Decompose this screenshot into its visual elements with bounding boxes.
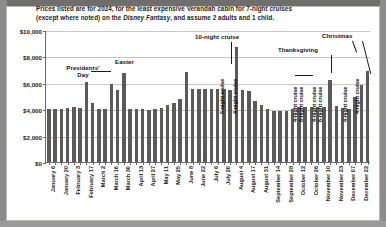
bar — [122, 73, 126, 162]
x-axis-tick-label: March 16 — [113, 166, 119, 190]
x-axis-tick-mark — [205, 162, 206, 165]
bar — [335, 106, 339, 162]
annotation-presidents-day-line2: Day — [77, 71, 88, 78]
x-axis-tick-mark — [55, 162, 56, 165]
x-axis-tick-label: April 13 — [138, 166, 144, 187]
bar — [241, 90, 245, 162]
y-axis-tick-label: $2,000 — [23, 133, 42, 140]
leader-line-10-night — [231, 42, 232, 64]
bar — [128, 109, 132, 162]
x-axis-tick-label: June 22 — [200, 166, 206, 187]
x-axis-tick-label: January 6 — [50, 166, 56, 192]
chart-figure: Prices listed are for 2024, for the leas… — [0, 0, 386, 227]
bar — [272, 111, 276, 162]
x-axis-tick-label: September 14 — [275, 166, 281, 203]
y-axis-tick-label: $4,000 — [23, 107, 42, 114]
annotation-5-night-cruise: 5-night cruise — [219, 79, 225, 114]
x-axis-tick-label: March 2 — [100, 166, 106, 187]
bar — [285, 111, 289, 162]
x-axis-tick-label: February 17 — [88, 166, 94, 198]
x-axis-tick-mark — [86, 162, 87, 165]
chart-title-line2-suffix: , and assume 2 adults and 1 child. — [170, 14, 274, 21]
bar — [103, 109, 107, 162]
x-axis-tick-mark — [136, 162, 137, 165]
x-axis-tick-mark — [330, 162, 331, 165]
annotation-4-night-cruise-1: 4-night cruise — [232, 79, 238, 114]
x-axis-tick-mark — [224, 162, 225, 165]
annotation-6-night-cruise-1: 6-night cruise — [298, 87, 304, 122]
x-axis-tick-mark — [261, 162, 262, 165]
y-axis-tick-label: $6,000 — [23, 80, 42, 87]
bar — [66, 108, 70, 162]
x-axis-tick-label: November 23 — [338, 166, 344, 201]
y-axis-tick-label: $8,000 — [23, 54, 42, 61]
bar — [178, 99, 182, 162]
x-axis-tick-mark — [124, 162, 125, 165]
bar — [203, 89, 207, 162]
x-axis-tick-mark — [349, 162, 350, 165]
x-axis-tick-mark — [99, 162, 100, 165]
x-axis-tick-mark — [168, 162, 169, 165]
x-axis-tick-mark — [74, 162, 75, 165]
x-axis-tick-mark — [249, 162, 250, 165]
bar — [210, 89, 214, 162]
bar — [110, 84, 114, 162]
x-axis-tick-mark — [161, 162, 162, 165]
x-axis-tick-mark — [68, 162, 69, 165]
plot-area: $0$2,000$4,000$6,000$8,000$10,000 Presid… — [45, 31, 370, 163]
x-axis-tick-mark — [143, 162, 144, 165]
chart-title-line2-prefix: (except where noted) on the — [36, 14, 123, 21]
x-axis-tick-mark — [243, 162, 244, 165]
x-axis-tick-mark — [199, 162, 200, 165]
bar — [247, 91, 251, 162]
bar — [53, 109, 57, 162]
bar — [172, 103, 176, 162]
bar — [185, 72, 189, 162]
bar — [360, 85, 364, 162]
x-axis-tick-label: July 6 — [213, 166, 219, 182]
bar — [266, 109, 270, 162]
chart-title-ship-name: Disney Fantasy — [123, 14, 170, 21]
bar — [91, 103, 95, 162]
bar — [60, 109, 64, 162]
x-axis-tick-mark — [299, 162, 300, 165]
x-axis-tick-mark — [174, 162, 175, 165]
x-axis-tick-mark — [368, 162, 369, 165]
leader-line-thanksgiving — [331, 55, 332, 73]
x-axis-label-group: January 6January 20February 3February 17… — [45, 166, 370, 224]
annotation-christmas: Christmas — [322, 32, 352, 39]
bar — [260, 105, 264, 162]
bar — [278, 111, 282, 162]
x-axis-tick-label: January 20 — [63, 166, 69, 195]
x-axis-tick-mark — [105, 162, 106, 165]
bar — [160, 108, 164, 162]
bar — [166, 105, 170, 162]
x-axis-tick-label: July 20 — [225, 166, 231, 185]
x-axis-tick-label: May 11 — [163, 166, 169, 184]
annotation-easter: Easter — [115, 58, 134, 65]
x-axis-tick-mark — [180, 162, 181, 165]
annotation-presidents-day-line1: Presidents' — [66, 64, 99, 71]
x-axis-tick-mark — [236, 162, 237, 165]
x-axis-tick-mark — [130, 162, 131, 165]
annotation-4-night-cruise-5: 4-night cruise — [354, 79, 360, 114]
annotation-4-night-cruise-4: 4-night cruise — [342, 87, 348, 122]
x-axis-tick-mark — [280, 162, 281, 165]
x-axis-tick-mark — [305, 162, 306, 165]
leader-line-thanksgiving-h — [295, 75, 313, 76]
bar — [78, 108, 82, 162]
x-axis-tick-mark — [218, 162, 219, 165]
x-axis-tick-label: February 3 — [75, 166, 81, 195]
x-axis-tick-label: March 30 — [125, 166, 131, 190]
bar — [253, 101, 257, 162]
bar — [135, 109, 139, 162]
bar — [72, 107, 76, 162]
x-axis-tick-label: November 10 — [325, 166, 331, 201]
bar — [97, 109, 101, 162]
x-axis-tick-mark — [293, 162, 294, 165]
bar — [85, 82, 89, 162]
y-axis-tick-label: $0 — [35, 160, 42, 167]
x-axis-tick-mark — [118, 162, 119, 165]
x-axis-tick-mark — [211, 162, 212, 165]
annotation-thanksgiving: Thanksgiving — [278, 46, 318, 53]
